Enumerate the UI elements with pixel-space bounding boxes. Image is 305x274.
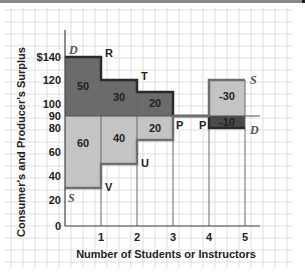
cs-value-1: 50 (77, 80, 89, 92)
ps-value-3: 20 (149, 122, 161, 134)
supply-label-top: S (250, 73, 257, 87)
y-axis-title: Consumer's and Producer's Surplus (15, 47, 27, 237)
x-axis-title: Number of Students or Instructors (76, 248, 256, 260)
x-tick-labels: 1 2 3 4 5 (98, 231, 248, 243)
ps-loss-value: -30 (219, 90, 235, 102)
ps-value-2: 40 (113, 132, 125, 144)
point-r: R (105, 47, 113, 59)
ps-value-1: 60 (77, 137, 89, 149)
surplus-chart: $140 120 100 90 80 60 40 20 0 1 2 3 4 5 … (0, 0, 305, 274)
x-tick-4: 4 (206, 231, 213, 243)
y-tick-140: $140 (37, 51, 61, 63)
demand-label-bottom: D (249, 123, 259, 137)
y-tick-90: 90 (49, 110, 61, 122)
cs-value-2: 30 (113, 91, 125, 103)
point-u: U (141, 157, 149, 169)
x-tick-1: 1 (98, 231, 104, 243)
y-tick-20: 20 (49, 194, 61, 206)
y-tick-0: 0 (55, 220, 61, 232)
point-t: T (141, 70, 148, 82)
point-v: V (105, 181, 113, 193)
supply-label-bottom: S (68, 191, 75, 205)
x-tick-5: 5 (242, 231, 248, 243)
y-tick-60: 60 (49, 146, 61, 158)
cs-value-3: 20 (149, 97, 161, 109)
point-p-1: P (176, 119, 183, 131)
x-tick-3: 3 (170, 231, 176, 243)
y-tick-80: 80 (49, 122, 61, 134)
y-tick-100: 100 (43, 98, 61, 110)
cs-loss-value: -10 (219, 116, 235, 128)
x-tick-2: 2 (134, 231, 140, 243)
demand-label-top: D (68, 43, 78, 57)
y-tick-40: 40 (49, 170, 61, 182)
y-tick-120: 120 (43, 74, 61, 86)
point-p-2: P (199, 119, 206, 131)
